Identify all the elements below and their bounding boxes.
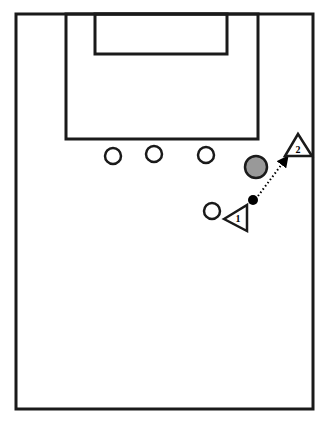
defender-circle <box>105 148 121 164</box>
defender-circle <box>204 203 220 219</box>
court-outline <box>16 14 313 409</box>
player-2-marker: 2 <box>285 134 312 156</box>
player-1-marker: 1 <box>224 205 247 231</box>
inner-box <box>95 14 227 54</box>
ball-holder-dot <box>248 195 258 205</box>
play-diagram: 12 <box>0 0 330 422</box>
player-number: 2 <box>296 144 301 155</box>
shaded-ball-marker <box>245 156 267 178</box>
player-number: 1 <box>236 213 241 224</box>
defender-circle <box>198 147 214 163</box>
defender-circle <box>146 146 162 162</box>
defender-markers <box>105 146 220 219</box>
